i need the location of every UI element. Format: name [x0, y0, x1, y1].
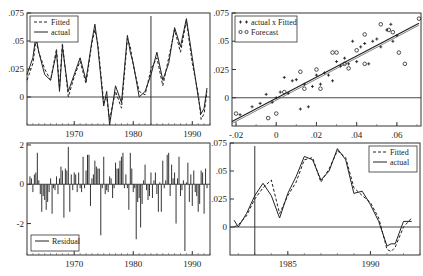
- point-actual: [389, 23, 392, 26]
- y-tick-label: 0: [20, 179, 25, 189]
- y-tick-label: -2: [17, 219, 25, 229]
- x-tick-label: 1990: [361, 259, 380, 269]
- point-forecast: [379, 23, 383, 27]
- point-actual: [265, 93, 268, 96]
- point-forecast: [347, 67, 351, 71]
- chart-canvas: .075.05.0250197019801990Fittedactual.075…: [0, 0, 423, 276]
- y-tick-label: .05: [13, 36, 25, 46]
- point-forecast: [397, 51, 401, 55]
- y-tick-label: .075: [8, 8, 24, 18]
- point-forecast: [299, 70, 303, 74]
- point-actual: [295, 78, 298, 81]
- point-forecast: [319, 87, 323, 91]
- point-forecast: [315, 68, 319, 72]
- x-tick-label: 1980: [124, 129, 143, 139]
- y-tick-label: 0: [225, 93, 230, 103]
- chart-panel-bottom-left: 20-2197019801990Residual: [17, 140, 211, 269]
- legend-label: Fitted: [390, 148, 409, 157]
- point-actual: [239, 113, 242, 116]
- point-forecast: [363, 33, 367, 37]
- legend: Fittedactual: [30, 16, 78, 42]
- point-forecast: [331, 51, 335, 55]
- point-actual: [307, 105, 310, 108]
- x-tick-label: 1970: [65, 259, 84, 269]
- y-tick-label: .05: [216, 166, 228, 176]
- x-tick-label: -.02: [229, 130, 243, 140]
- point-actual: [259, 102, 262, 105]
- x-tick-label: 1990: [183, 129, 202, 139]
- legend-label: actual: [390, 158, 410, 167]
- x-tick-label: 1970: [65, 129, 84, 139]
- point-forecast: [274, 112, 278, 116]
- x-tick-label: .04: [351, 130, 363, 140]
- point-forecast: [391, 30, 395, 34]
- point-actual: [331, 79, 334, 82]
- legend-label: Forecast: [251, 28, 279, 37]
- chart-panel-top-left: .075.05.0250197019801990Fittedactual: [8, 8, 210, 139]
- x-tick-label: 0: [274, 130, 279, 140]
- legend: actual x FittedForecast: [235, 16, 297, 42]
- point-actual: [283, 76, 286, 79]
- legend: Fittedactual: [369, 146, 417, 172]
- legend-label: actual: [51, 28, 71, 37]
- y-tick-label: 0: [20, 92, 25, 102]
- y-tick-label: .05: [218, 36, 230, 46]
- point-actual: [363, 42, 366, 45]
- point-forecast: [417, 17, 421, 21]
- point-actual: [375, 37, 378, 40]
- point-forecast: [303, 87, 307, 91]
- y-tick-label: .075: [213, 8, 229, 18]
- x-tick-label: 1980: [124, 259, 143, 269]
- x-tick-label: .02: [311, 130, 322, 140]
- point-actual: [355, 60, 358, 63]
- y-tick-label: .025: [213, 65, 229, 75]
- y-tick-label: .025: [211, 194, 227, 204]
- point-actual: [367, 62, 370, 65]
- point-actual: [351, 40, 354, 43]
- legend: Residual: [31, 235, 81, 251]
- point-actual: [299, 108, 302, 111]
- point-actual: [311, 85, 314, 88]
- point-forecast: [355, 48, 359, 52]
- point-actual: [291, 79, 294, 82]
- point-actual: [319, 83, 322, 86]
- y-tick-label: .075: [211, 138, 227, 148]
- point-forecast: [234, 112, 238, 116]
- chart-panel-top-right: .075.05.0250-.020.02.04.06actual x Fitte…: [213, 8, 421, 140]
- x-tick-label: 1990: [183, 259, 202, 269]
- point-actual: [279, 91, 282, 94]
- point-actual: [343, 57, 346, 60]
- point-actual: [391, 40, 394, 43]
- x-tick-label: .06: [391, 130, 403, 140]
- point-forecast: [266, 116, 270, 120]
- point-actual: [251, 105, 254, 108]
- x-tick-label: 1985: [279, 259, 298, 269]
- chart-panel-bottom-right: .075.05.025019851990Fittedactual: [211, 138, 420, 269]
- point-forecast: [335, 51, 339, 55]
- point-actual: [327, 74, 330, 77]
- point-actual: [335, 60, 338, 63]
- y-tick-label: 2: [20, 140, 25, 150]
- point-actual: [359, 45, 362, 48]
- point-forecast: [363, 62, 367, 66]
- y-tick-label: .025: [8, 64, 24, 74]
- point-actual: [371, 40, 374, 43]
- legend-label: Residual: [52, 237, 81, 246]
- y-tick-label: 0: [223, 222, 228, 232]
- legend-label: actual x Fitted: [251, 18, 297, 27]
- legend-label: Fitted: [51, 18, 70, 27]
- point-forecast: [403, 62, 407, 66]
